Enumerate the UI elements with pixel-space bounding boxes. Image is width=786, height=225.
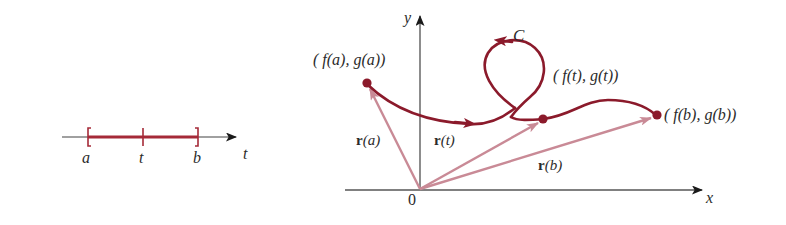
curve-segment-to-mid xyxy=(511,117,543,120)
vector-label-r-a: r(a) xyxy=(356,133,380,148)
curve-label-c: C xyxy=(513,27,524,44)
point-label-middle: ( f(t), g(t)) xyxy=(553,68,618,84)
point-label-end: ( f(b), g(b)) xyxy=(664,107,736,123)
vector-r-b xyxy=(420,118,651,189)
vector-label-r-a-bold: r xyxy=(356,132,363,148)
vector-label-r-a-arg: (a) xyxy=(363,132,381,148)
vector-label-r-t: r(t) xyxy=(434,133,455,148)
interval-axis-label: t xyxy=(243,146,247,162)
vector-label-r-t-bold: r xyxy=(434,132,441,148)
point-dot-middle xyxy=(538,114,547,123)
interval-tick-label-a: a xyxy=(82,150,90,166)
figure-root: a t b t y x 0 C ( f(a), g(a)) ( f(t), g(… xyxy=(0,0,786,225)
vector-label-r-t-arg: (t) xyxy=(441,132,455,148)
y-axis-label: y xyxy=(404,10,411,26)
origin-label: 0 xyxy=(408,192,416,208)
interval-tick-label-t: t xyxy=(139,150,143,166)
point-dot-start xyxy=(362,78,371,87)
interval-axis-group xyxy=(62,128,236,146)
curve-direction-arrow-2 xyxy=(500,41,512,43)
curve-segment-loop xyxy=(485,40,544,117)
vector-label-r-b: r(b) xyxy=(538,158,562,173)
curve-direction-arrow-1 xyxy=(455,122,470,124)
curve-segment-end xyxy=(543,100,656,119)
vector-label-r-b-bold: r xyxy=(538,157,545,173)
curve-segment-trough xyxy=(470,108,515,124)
vector-label-r-b-arg: (b) xyxy=(545,157,563,173)
point-dot-end xyxy=(652,110,661,119)
point-label-start: ( f(a), g(a)) xyxy=(313,52,385,68)
interval-tick-label-b: b xyxy=(193,150,201,166)
x-axis-label: x xyxy=(706,190,713,206)
